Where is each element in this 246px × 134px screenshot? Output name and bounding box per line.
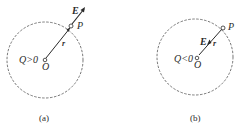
caption: (a): [39, 113, 49, 123]
field-arrowhead: [207, 40, 212, 46]
point-label: P: [227, 21, 234, 32]
caption: (b): [190, 113, 201, 123]
panel-a: Q>0 O P r E (a): [7, 5, 85, 123]
dashed-circle: [157, 19, 233, 95]
radius-label: r: [62, 39, 66, 48]
radius-line: [46, 28, 70, 58]
diagram-canvas: Q>0 O P r E (a) Q<0 O P E r (b): [0, 0, 246, 134]
origin-label: O: [42, 61, 49, 72]
field-point-p: [69, 24, 73, 28]
panel-b: Q<0 O P E r (b): [157, 19, 234, 123]
point-label: P: [76, 20, 83, 31]
origin-label: O: [194, 59, 201, 70]
charge-label: Q>0: [19, 54, 38, 65]
radius-label: r: [213, 39, 217, 48]
field-label: E: [199, 36, 207, 47]
charge-label: Q<0: [174, 53, 193, 64]
field-point-p: [221, 26, 225, 30]
field-label: E: [71, 5, 79, 16]
